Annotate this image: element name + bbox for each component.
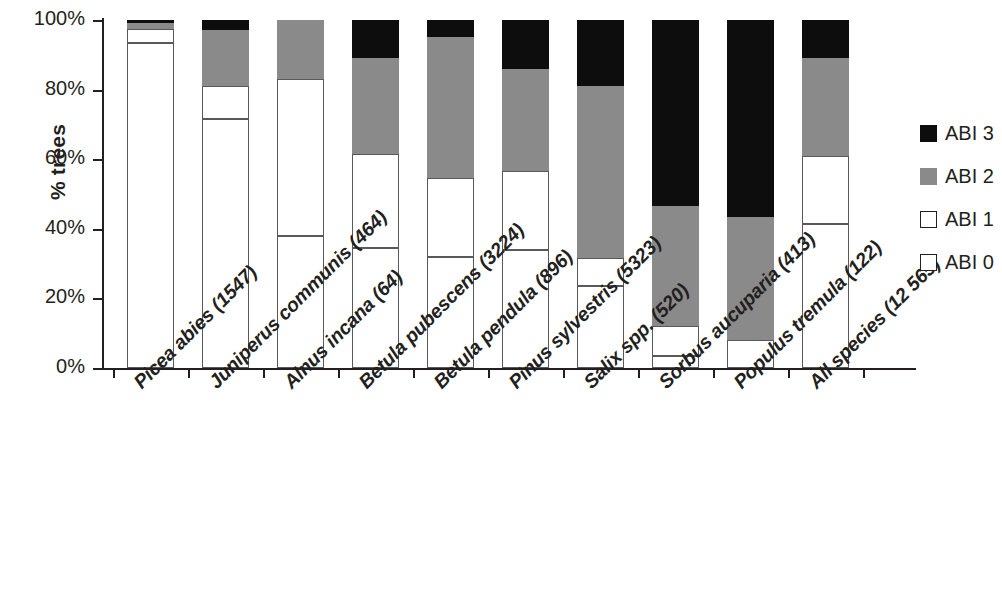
x-tick-mark [713, 368, 715, 378]
bar-segment-abi-3[interactable] [802, 20, 849, 58]
bar-segment-abi-2[interactable] [577, 86, 624, 258]
legend-item-abi-2[interactable]: ABI 2 [920, 155, 1002, 198]
bar-segment-abi-1[interactable] [202, 86, 249, 119]
bar-segment-abi-1[interactable] [277, 79, 324, 236]
y-tick-label: 40% [45, 216, 85, 239]
bar-segment-abi-2[interactable] [202, 30, 249, 86]
legend-swatch-icon [920, 168, 937, 185]
bar-segment-abi-3[interactable] [502, 20, 549, 69]
bar-segment-abi-2[interactable] [127, 23, 174, 28]
bar-segment-abi-3[interactable] [727, 20, 774, 217]
bar-segment-abi-1[interactable] [427, 178, 474, 256]
y-tick-label: 60% [45, 146, 85, 169]
x-tick-mark [188, 368, 190, 378]
y-tick-mark [93, 20, 103, 22]
chart-legend: ABI 3ABI 2ABI 1ABI 0 [920, 112, 1002, 284]
x-tick-mark [113, 368, 115, 378]
legend-label: ABI 1 [945, 208, 994, 231]
legend-swatch-icon [920, 125, 937, 142]
y-tick-mark [93, 368, 103, 370]
legend-label: ABI 3 [945, 122, 994, 145]
legend-swatch-icon [920, 254, 937, 271]
bar-segment-abi-2[interactable] [502, 69, 549, 172]
bar-segment-abi-3[interactable] [352, 20, 399, 58]
y-tick-mark [93, 229, 103, 231]
x-tick-mark [638, 368, 640, 378]
bar-segment-abi-2[interactable] [802, 58, 849, 155]
bar-segment-abi-0[interactable] [127, 43, 174, 368]
bar-stack[interactable] [127, 20, 174, 368]
x-tick-mark [563, 368, 565, 378]
y-tick-mark [93, 90, 103, 92]
x-tick-mark [263, 368, 265, 378]
legend-swatch-icon [920, 211, 937, 228]
bar-segment-abi-2[interactable] [352, 58, 399, 154]
legend-item-abi-1[interactable]: ABI 1 [920, 198, 1002, 241]
bar-segment-abi-3[interactable] [127, 20, 174, 23]
y-tick-mark [93, 298, 103, 300]
bar-segment-abi-1[interactable] [127, 29, 174, 43]
x-tick-mark [863, 368, 865, 378]
chart-figure: % trees 100%80%60%40%20%0% Picea abies (… [0, 0, 1002, 611]
x-tick-mark [788, 368, 790, 378]
y-tick-label: 100% [34, 7, 85, 30]
bar-segment-abi-3[interactable] [427, 20, 474, 37]
legend-label: ABI 0 [945, 251, 994, 274]
bar-segment-abi-3[interactable] [652, 20, 699, 206]
y-tick-label: 20% [45, 285, 85, 308]
bar-segment-abi-3[interactable] [577, 20, 624, 86]
bar-segment-abi-0[interactable] [202, 119, 249, 368]
y-tick-label: 0% [56, 355, 85, 378]
y-tick-label: 80% [45, 77, 85, 100]
bar-segment-abi-3[interactable] [202, 20, 249, 30]
x-tick-mark [413, 368, 415, 378]
bar-segment-abi-2[interactable] [427, 37, 474, 178]
legend-item-abi-3[interactable]: ABI 3 [920, 112, 1002, 155]
bar-segment-abi-2[interactable] [277, 20, 324, 79]
x-tick-mark [488, 368, 490, 378]
bar-segment-abi-1[interactable] [802, 156, 849, 224]
legend-item-abi-0[interactable]: ABI 0 [920, 241, 1002, 284]
x-tick-mark [338, 368, 340, 378]
y-tick-mark [93, 159, 103, 161]
legend-label: ABI 2 [945, 165, 994, 188]
